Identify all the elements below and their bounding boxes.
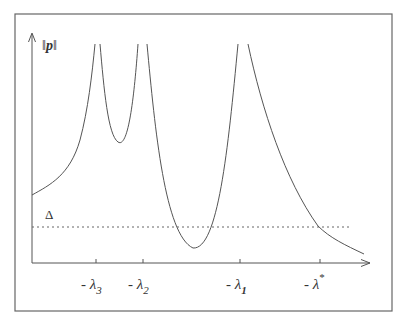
y-axis [29,33,36,263]
x-label-lambda1: - λ1 [226,276,247,296]
delta-label: Δ [45,207,53,222]
x-axis [32,259,370,267]
norm-curve [32,44,364,254]
curve-segment-2 [100,44,138,143]
x-label-lambda2: - λ2 [128,276,149,296]
figure-frame [15,14,392,311]
y-axis-label: ‖p‖ [42,38,57,53]
curve-segment-4 [248,44,364,254]
x-label-lambda-star: - λ* [304,271,325,292]
x-label-lambda3: - λ3 [81,276,102,296]
curve-segment-3 [147,44,238,248]
diagram-canvas: ‖p‖ Δ - λ3 - λ2 - λ1 - λ* [0,0,406,325]
curve-segment-1 [32,44,95,195]
